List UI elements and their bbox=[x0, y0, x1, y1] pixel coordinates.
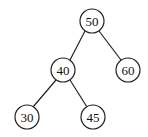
tree-node-50: 50 bbox=[80, 9, 104, 33]
tree-node-30: 30 bbox=[15, 105, 39, 129]
tree-node-45: 45 bbox=[81, 105, 105, 129]
edge-40-45 bbox=[70, 80, 87, 107]
edge-50-60 bbox=[99, 31, 121, 60]
edges bbox=[33, 31, 121, 107]
node-label: 30 bbox=[21, 110, 34, 125]
node-label: 45 bbox=[87, 110, 100, 125]
edge-50-40 bbox=[70, 31, 85, 60]
tree-node-60: 60 bbox=[116, 58, 140, 82]
node-label: 50 bbox=[86, 14, 99, 29]
node-label: 60 bbox=[122, 63, 135, 78]
node-label: 40 bbox=[57, 63, 70, 78]
edge-40-30 bbox=[33, 80, 56, 107]
tree-node-40: 40 bbox=[51, 58, 75, 82]
binary-tree-diagram: 50 40 60 30 45 bbox=[0, 0, 148, 137]
